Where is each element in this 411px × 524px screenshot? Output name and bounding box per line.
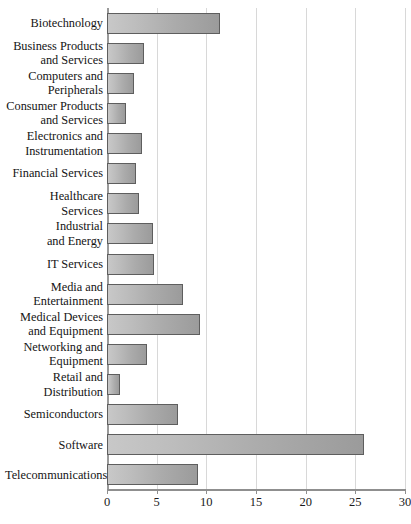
- bar[interactable]: [107, 13, 220, 34]
- category-label-line: Medical Devices: [5, 310, 103, 325]
- x-tick-mark: [405, 490, 406, 494]
- bar[interactable]: [107, 223, 153, 244]
- bar-row: [107, 68, 405, 98]
- bar-row: [107, 98, 405, 128]
- bar-row: [107, 460, 405, 490]
- bar[interactable]: [107, 374, 120, 395]
- category-label-line: Media and: [5, 280, 103, 295]
- bar-row: [107, 309, 405, 339]
- x-tick-label: 25: [349, 495, 362, 509]
- category-label-line: and Services: [5, 53, 103, 68]
- category-label-line: Semiconductors: [5, 407, 103, 422]
- category-label-line: Electronics and: [5, 129, 103, 144]
- category-label: Electronics andInstrumentation: [5, 129, 107, 159]
- x-tick-mark: [157, 490, 158, 494]
- category-label-line: Distribution: [5, 385, 103, 400]
- bar[interactable]: [107, 193, 139, 214]
- bar-row: [107, 129, 405, 159]
- x-tick-mark: [206, 490, 207, 494]
- bar-row: [107, 370, 405, 400]
- category-label-line: Services: [5, 204, 103, 219]
- bar[interactable]: [107, 163, 136, 184]
- bar[interactable]: [107, 344, 147, 365]
- category-label: Medical Devicesand Equipment: [5, 309, 107, 339]
- x-tick-label: 0: [104, 495, 110, 509]
- bar[interactable]: [107, 464, 198, 485]
- bar-row: [107, 430, 405, 460]
- bar[interactable]: [107, 314, 200, 335]
- bar[interactable]: [107, 133, 142, 154]
- category-label: Business Productsand Services: [5, 38, 107, 68]
- plot-area: [107, 8, 405, 490]
- bar-row: [107, 279, 405, 309]
- category-label-line: Healthcare: [5, 189, 103, 204]
- gridline-30: [405, 8, 406, 490]
- category-label: Software: [5, 430, 107, 460]
- bar[interactable]: [107, 43, 144, 64]
- bar[interactable]: [107, 103, 126, 124]
- bar-row: [107, 189, 405, 219]
- category-label: Semiconductors: [5, 400, 107, 430]
- category-labels: BiotechnologyBusiness Productsand Servic…: [0, 8, 107, 490]
- bar-row: [107, 400, 405, 430]
- bar[interactable]: [107, 434, 364, 455]
- bar-row: [107, 8, 405, 38]
- bar-row: [107, 159, 405, 189]
- bar[interactable]: [107, 254, 154, 275]
- category-label: Biotechnology: [5, 8, 107, 38]
- category-label-line: Networking and: [5, 340, 103, 355]
- bar-row: [107, 339, 405, 369]
- category-label-line: Industrial: [5, 219, 103, 234]
- category-label-line: Telecommunications: [5, 468, 103, 483]
- x-tick-label: 5: [154, 495, 160, 509]
- bar[interactable]: [107, 404, 178, 425]
- category-label-line: Retail and: [5, 370, 103, 385]
- x-tick-mark: [107, 490, 108, 494]
- category-label: Industrialand Energy: [5, 219, 107, 249]
- category-label: Consumer Productsand Services: [5, 98, 107, 128]
- category-label-line: Biotechnology: [5, 16, 103, 31]
- x-tick-mark: [306, 490, 307, 494]
- bar[interactable]: [107, 73, 134, 94]
- category-label-line: Peripherals: [5, 83, 103, 98]
- category-label: HealthcareServices: [5, 189, 107, 219]
- category-label: Telecommunications: [5, 460, 107, 490]
- x-tick-label: 20: [299, 495, 312, 509]
- bar-row: [107, 219, 405, 249]
- x-tick-label: 30: [399, 495, 411, 509]
- category-label: Media andEntertainment: [5, 279, 107, 309]
- x-tick-label: 10: [200, 495, 213, 509]
- category-label-line: IT Services: [5, 257, 103, 272]
- category-label-line: Computers and: [5, 69, 103, 84]
- category-label: Retail andDistribution: [5, 370, 107, 400]
- bar[interactable]: [107, 284, 183, 305]
- x-tick-mark: [256, 490, 257, 494]
- category-label: Networking andEquipment: [5, 339, 107, 369]
- category-label-line: Software: [5, 438, 103, 453]
- bar-row: [107, 249, 405, 279]
- category-label-line: Business Products: [5, 39, 103, 54]
- category-label: Computers andPeripherals: [5, 68, 107, 98]
- bar-row: [107, 38, 405, 68]
- category-label: Financial Services: [5, 159, 107, 189]
- category-label-line: and Energy: [5, 234, 103, 249]
- category-label-line: and Equipment: [5, 324, 103, 339]
- x-tick-mark: [355, 490, 356, 494]
- category-label-line: and Services: [5, 113, 103, 128]
- category-label-line: Consumer Products: [5, 99, 103, 114]
- category-label: IT Services: [5, 249, 107, 279]
- category-label-line: Entertainment: [5, 294, 103, 309]
- x-tick-label: 15: [250, 495, 263, 509]
- category-label-line: Instrumentation: [5, 144, 103, 159]
- category-label-line: Equipment: [5, 354, 103, 369]
- category-label-line: Financial Services: [5, 166, 103, 181]
